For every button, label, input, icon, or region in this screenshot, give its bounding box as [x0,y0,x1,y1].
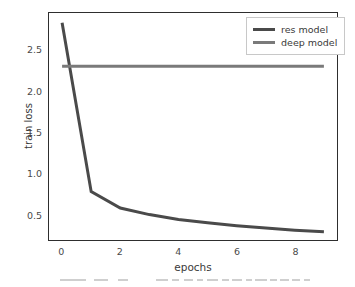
caption-fragment [222,279,229,281]
x-tick-label: 6 [234,246,240,257]
caption-fragment [118,279,128,281]
caption-fragment [172,279,179,281]
caption-fragment [156,279,168,281]
y-tick-label: 1.0 [27,168,42,179]
caption-fragment [60,279,86,281]
caption-fragment [270,279,277,281]
y-tick-label: 0.5 [27,209,42,220]
caption-fragment [246,279,252,281]
y-tick-label: 2.5 [27,44,42,55]
legend-swatch-icon [253,28,275,31]
caption-fragment [207,279,218,281]
legend-item: deep model [253,36,337,49]
caption-fragment [94,279,108,281]
caption-fragment [280,279,289,281]
clipped-caption-sliver [60,277,310,284]
chart-legend: res modeldeep model [246,17,345,55]
caption-fragment [197,279,203,281]
legend-item: res model [253,23,337,36]
caption-fragment [255,279,267,281]
x-tick-label: 4 [175,246,181,257]
caption-fragment [232,279,242,281]
caption-fragment [304,279,310,281]
chart-figure: 0.51.01.52.02.5 train loss 02468 epochs … [0,0,355,287]
x-tick-label: 8 [292,246,298,257]
legend-swatch-icon [253,41,275,44]
x-axis-label: epochs [174,261,211,273]
x-tick-label: 2 [117,246,123,257]
legend-label: res model [281,23,328,36]
caption-fragment [292,279,300,281]
y-tick-label: 2.0 [27,85,42,96]
caption-fragment [184,279,193,281]
x-tick-label: 0 [58,246,64,257]
y-axis-label: train loss [23,103,34,149]
legend-label: deep model [281,36,337,49]
